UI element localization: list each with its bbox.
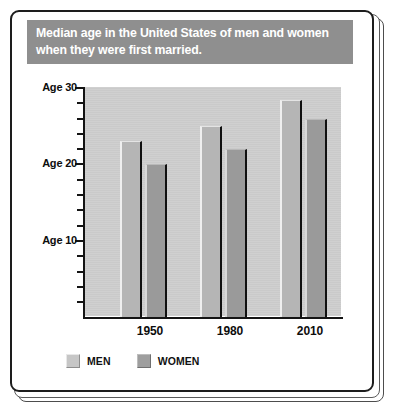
chart-title-line-1: Median age in the United States of men a… [36, 25, 344, 42]
bar-men-1980[interactable] [200, 126, 222, 317]
legend-item-women[interactable]: WOMEN [137, 354, 200, 368]
bar-women-1950[interactable] [145, 164, 167, 317]
chart-title-line-2: when they were first married. [36, 42, 344, 59]
x-axis-label-1950: 1950 [120, 324, 180, 338]
bar-men-2010[interactable] [280, 100, 302, 318]
legend-swatch-men-icon [66, 354, 80, 368]
page-frame: Median age in the United States of men a… [0, 0, 394, 412]
x-axis-line [83, 317, 343, 319]
x-axis-label-2010: 2010 [280, 324, 340, 338]
y-axis-label-10: Age 10 [27, 234, 77, 246]
bars-layer [84, 87, 341, 317]
bar-chart: Age 30 Age 20 Age 10 1950 [27, 76, 353, 336]
legend-item-men[interactable]: MEN [66, 354, 111, 368]
y-axis-label-20: Age 20 [27, 157, 77, 169]
chart-title-banner: Median age in the United States of men a… [27, 20, 353, 64]
bar-men-1950[interactable] [120, 141, 142, 317]
bar-women-1980[interactable] [225, 149, 247, 317]
legend-label-men: MEN [87, 355, 111, 367]
legend-swatch-women-icon [137, 354, 151, 368]
legend-label-women: WOMEN [158, 355, 200, 367]
y-axis-label-30: Age 30 [27, 81, 77, 93]
chart-legend: MEN WOMEN [66, 354, 200, 368]
x-axis-label-1980: 1980 [200, 324, 260, 338]
bar-women-2010[interactable] [305, 119, 327, 318]
